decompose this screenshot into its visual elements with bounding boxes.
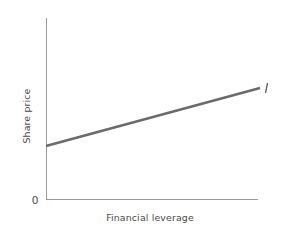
origin-label: 0: [32, 194, 39, 206]
chart-figure: 0 Share price Financial leverage: [0, 0, 281, 241]
line-chart-svg: 0 Share price Financial leverage: [0, 0, 281, 241]
x-axis-label: Financial leverage: [106, 212, 194, 223]
y-axis-label: Share price: [21, 88, 32, 143]
